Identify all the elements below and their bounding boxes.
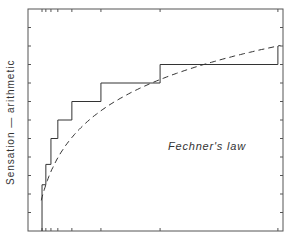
y-axis-label: Sensation — arithmetic — [5, 65, 19, 185]
x-ticks — [42, 9, 278, 231]
log-curve-dashed — [41, 46, 280, 201]
chart-annotation: Fechner's law — [168, 140, 246, 152]
step-function — [42, 46, 278, 231]
fechner-chart — [0, 0, 290, 247]
